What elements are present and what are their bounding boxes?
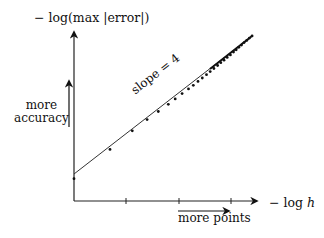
data-point [237, 46, 240, 49]
data-point [213, 67, 216, 70]
data-point [209, 70, 212, 73]
data-point [187, 88, 190, 91]
x-axis-label: − log h [269, 196, 315, 209]
x-axis-label-prefix: − log [269, 195, 307, 210]
data-points [73, 35, 254, 181]
data-point [226, 56, 229, 59]
data-point [223, 59, 226, 62]
data-point [232, 51, 235, 54]
more-accuracy-annotation: more accuracy [14, 99, 69, 125]
y-axis-label: − log(max |error|) [34, 11, 149, 24]
accuracy-text: accuracy [14, 112, 69, 125]
data-point [216, 64, 219, 67]
data-point [251, 35, 254, 38]
data-point [157, 110, 160, 113]
data-point [235, 48, 238, 51]
data-point [219, 61, 222, 64]
data-point [146, 118, 149, 121]
data-point [197, 80, 200, 83]
data-point [245, 39, 248, 42]
data-point [174, 98, 177, 101]
data-point [181, 92, 184, 95]
data-point [205, 73, 208, 76]
data-point [73, 177, 76, 180]
data-point [192, 84, 195, 87]
data-point [109, 148, 112, 151]
data-point [131, 129, 134, 132]
more-points-annotation: more points [178, 212, 251, 225]
data-point [167, 103, 170, 106]
data-point [240, 44, 243, 47]
data-point [229, 54, 232, 57]
data-point [243, 41, 246, 44]
data-point [248, 37, 251, 40]
x-axis-variable: h [307, 195, 315, 210]
data-point [201, 77, 204, 80]
